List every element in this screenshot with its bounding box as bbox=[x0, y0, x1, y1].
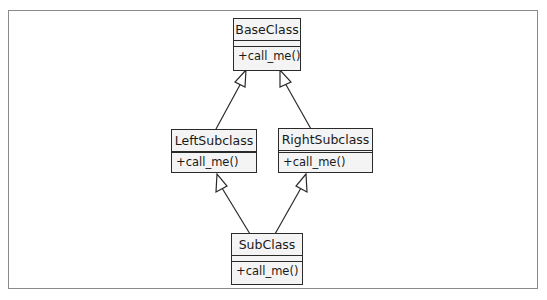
edge-sub-to-right bbox=[275, 188, 301, 234]
generalization-arrow-icon bbox=[235, 70, 246, 87]
class-box-baseclass[interactable]: BaseClass +call_me() bbox=[233, 18, 301, 71]
edge-left-to-base bbox=[216, 83, 241, 129]
edge-sub-to-left bbox=[222, 188, 250, 234]
class-name: SubClass bbox=[232, 234, 302, 256]
edge-right-to-base bbox=[285, 83, 311, 129]
generalization-arrow-icon bbox=[296, 174, 307, 192]
class-operation: +call_me() bbox=[234, 47, 300, 70]
class-operation: +call_me() bbox=[232, 262, 302, 284]
class-name: BaseClass bbox=[234, 19, 300, 41]
class-name: LeftSubclass bbox=[172, 130, 256, 152]
class-name: RightSubclass bbox=[279, 129, 372, 151]
class-box-subclass[interactable]: SubClass +call_me() bbox=[231, 233, 303, 285]
class-box-leftsubclass[interactable]: LeftSubclass +call_me() bbox=[171, 129, 257, 173]
class-box-rightsubclass[interactable]: RightSubclass +call_me() bbox=[278, 128, 373, 173]
class-operation: +call_me() bbox=[172, 153, 256, 172]
class-operation: +call_me() bbox=[279, 153, 372, 172]
generalization-arrow-icon bbox=[280, 70, 291, 87]
generalization-arrow-icon bbox=[216, 174, 227, 192]
